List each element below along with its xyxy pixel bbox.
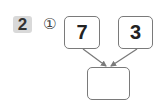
number-box-right: 3 — [118, 16, 153, 49]
number-box-left: 7 — [64, 16, 100, 49]
answer-box[interactable] — [87, 67, 130, 100]
sub-question-number: ① — [43, 15, 56, 33]
right-arrow — [111, 49, 137, 66]
left-arrow — [83, 49, 106, 66]
problem-number-badge: 2 — [13, 16, 32, 33]
